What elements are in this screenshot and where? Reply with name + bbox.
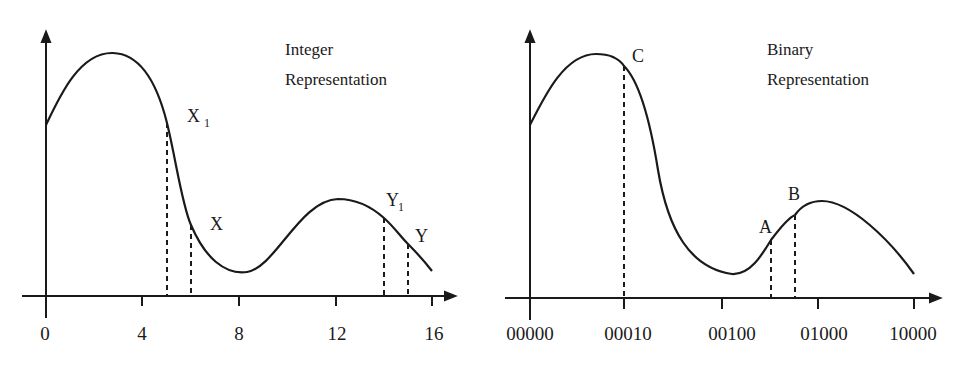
point-label-x1-subscript: 1 xyxy=(204,116,210,130)
binary-representation-chart: 00000 00010 00100 01000 10000 Binary Rep… xyxy=(505,32,940,344)
chart-title-line2: Representation xyxy=(767,70,869,89)
chart-title-line2: Representation xyxy=(285,70,387,89)
integer-representation-chart: 0 4 8 12 16 Integer Representation X 1 X… xyxy=(22,32,455,344)
x-ticks xyxy=(142,296,432,306)
point-label-a: A xyxy=(759,217,772,237)
point-label-y1-subscript: 1 xyxy=(398,200,404,214)
chart-title-line1: Integer xyxy=(285,40,333,59)
tick-label-10000: 10000 xyxy=(889,323,937,344)
tick-label-00000: 00000 xyxy=(506,323,554,344)
tick-label-4: 4 xyxy=(137,323,147,344)
point-label-c: C xyxy=(632,46,644,66)
point-label-x: X xyxy=(210,214,223,234)
chart-title-line1: Binary xyxy=(767,40,814,59)
point-label-x1: X xyxy=(187,106,200,126)
tick-label-01000: 01000 xyxy=(800,323,848,344)
point-label-y: Y xyxy=(415,226,428,246)
point-label-b: B xyxy=(788,184,800,204)
tick-label-16: 16 xyxy=(425,323,444,344)
x-ticks xyxy=(624,298,914,309)
tick-label-12: 12 xyxy=(328,323,347,344)
tick-label-8: 8 xyxy=(234,323,244,344)
figure: 0 4 8 12 16 Integer Representation X 1 X… xyxy=(0,0,968,367)
tick-label-00010: 00010 xyxy=(604,323,652,344)
tick-label-00100: 00100 xyxy=(708,323,756,344)
tick-label-0: 0 xyxy=(40,323,50,344)
